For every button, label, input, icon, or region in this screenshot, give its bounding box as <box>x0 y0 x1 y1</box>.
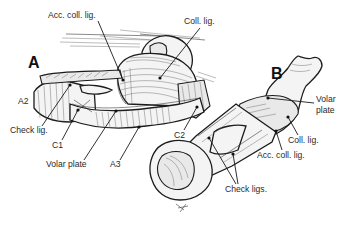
marker-a-acc-coll-lig <box>121 78 124 81</box>
marker-b-acc-coll-lig <box>274 129 277 132</box>
marker-a-check-lig <box>68 83 71 86</box>
marker-a-a3 <box>137 125 140 128</box>
figure-canvas: A B Acc. coll. lig. Coll. lig. A2 Check … <box>0 0 345 225</box>
marker-b-check-ligs-2 <box>231 152 234 155</box>
label-b-acc-coll-lig: Acc. coll. lig. <box>257 150 305 160</box>
panel-label-a: A <box>28 54 40 71</box>
label-b-coll-lig: Coll. lig. <box>288 135 319 145</box>
label-a-coll-lig: Coll. lig. <box>184 16 215 26</box>
panel-a-drawing <box>34 30 216 128</box>
marker-b-check-ligs-1 <box>207 136 210 139</box>
marker-a-c1 <box>76 108 79 111</box>
marker-a-coll-lig <box>158 76 161 79</box>
anatomical-figure: A B Acc. coll. lig. Coll. lig. A2 Check … <box>0 0 345 225</box>
label-a-acc-coll-lig: Acc. coll. lig. <box>48 10 96 20</box>
marker-a-volar-plate <box>114 109 117 112</box>
leader-a-a3 <box>120 127 139 160</box>
label-a-a3: A3 <box>110 159 121 169</box>
label-a-a2: A2 <box>18 96 29 106</box>
label-b-volar-plate-line1: Volar <box>316 94 336 104</box>
label-a-c2: C2 <box>174 130 185 140</box>
label-b-check-ligs: Check ligs. <box>225 184 267 194</box>
panel-label-b: B <box>271 65 283 82</box>
label-a-check-lig: Check lig. <box>10 125 48 135</box>
marker-a-c2 <box>195 105 198 108</box>
label-b-volar-plate-line2: plate <box>316 105 335 115</box>
marker-b-volar-plate <box>266 96 269 99</box>
marker-b-coll-lig <box>286 115 289 118</box>
label-a-volar-plate: Volar plate <box>46 159 87 169</box>
label-a-c1: C1 <box>52 140 63 150</box>
leader-b-acc-coll-lig <box>276 131 282 150</box>
